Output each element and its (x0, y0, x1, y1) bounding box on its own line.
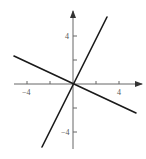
axes (14, 11, 142, 149)
x-tick-label-neg4: −4 (22, 88, 31, 97)
x-tick-label-pos4: 4 (117, 88, 121, 97)
y-tick-label-neg4: −4 (61, 128, 70, 137)
coordinate-plane-figure: −4 4 4 −4 (0, 0, 146, 159)
y-tick-label-pos4: 4 (65, 32, 69, 41)
